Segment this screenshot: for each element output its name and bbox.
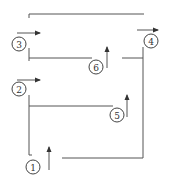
node-6-label: 6 <box>93 63 99 73</box>
node-4: 4 <box>144 34 158 48</box>
diagram-canvas: 1 2 3 4 5 6 <box>0 0 169 183</box>
path-4-connector <box>122 47 143 158</box>
path-3-to-6 <box>29 48 92 61</box>
node-1: 1 <box>26 160 40 174</box>
node-2-label: 2 <box>16 85 22 95</box>
node-3-label: 3 <box>16 40 22 50</box>
node-2: 2 <box>12 82 26 96</box>
path-2-to-5 <box>29 95 113 155</box>
top-bracket-line <box>29 14 144 18</box>
node-5: 5 <box>110 108 124 122</box>
node-4-label: 4 <box>148 37 154 47</box>
node-6: 6 <box>89 60 103 74</box>
node-1-label: 1 <box>30 163 36 173</box>
node-5-label: 5 <box>114 111 120 121</box>
node-3: 3 <box>12 37 26 51</box>
